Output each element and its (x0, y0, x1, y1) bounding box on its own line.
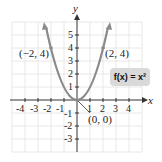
point-left (49, 46, 53, 50)
function-label-box: f(x) = x² (110, 68, 150, 86)
y-tick-5: 5 (68, 30, 73, 40)
y-arrow-icon (74, 14, 80, 20)
function-label: f(x) = x² (114, 72, 146, 82)
y-tick-2: 2 (68, 69, 73, 79)
x-tick--4: -4 (16, 104, 24, 114)
point-right-label: (2, 4) (105, 48, 129, 59)
y-tick--2: -2 (64, 121, 72, 131)
curve-arrow-left-icon (42, 22, 48, 30)
y-tick-4: 4 (68, 43, 73, 53)
x-tick--3: -3 (30, 104, 38, 114)
x-tick--2: -2 (43, 104, 51, 114)
x-axis-label: x (148, 95, 153, 106)
y-tick-1: 1 (68, 82, 73, 92)
y-tick-3: 3 (68, 56, 73, 66)
curve-arrow-right-icon (106, 22, 112, 30)
y-axis-label: y (73, 3, 78, 14)
x-tick-4: 4 (126, 104, 131, 114)
y-tick--1: -1 (64, 109, 72, 119)
point-origin-label: (0, 0) (88, 114, 112, 125)
point-left-label: (−2, 4) (19, 48, 49, 59)
x-tick-3: 3 (113, 104, 118, 114)
y-tick--3: -3 (64, 134, 72, 144)
